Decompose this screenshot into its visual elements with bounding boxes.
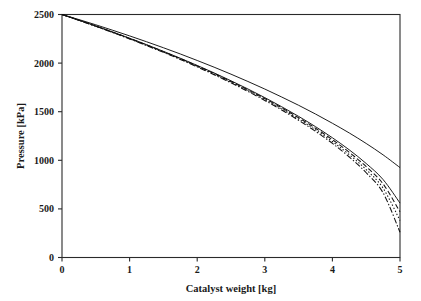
y-axis-title: Pressure [kPa]: [15, 103, 26, 169]
x-tick-label: 5: [398, 264, 403, 275]
chart-background: [0, 0, 421, 301]
x-tick-label: 0: [60, 264, 65, 275]
y-tick-label: 500: [39, 203, 54, 214]
y-tick-label: 1000: [34, 155, 54, 166]
y-tick-label: 2500: [34, 9, 54, 20]
y-tick-label: 0: [49, 252, 54, 263]
x-tick-label: 1: [127, 264, 132, 275]
y-tick-label: 2000: [34, 58, 54, 69]
y-tick-label: 1500: [34, 106, 54, 117]
x-tick-label: 4: [330, 264, 335, 275]
chart-page: 012345 05001000150020002500 Catalyst wei…: [0, 0, 421, 301]
x-tick-label: 2: [195, 264, 200, 275]
pressure-vs-catalyst-weight-chart: 012345 05001000150020002500 Catalyst wei…: [0, 0, 421, 301]
x-tick-label: 3: [262, 264, 267, 275]
x-axis-title: Catalyst weight [kg]: [186, 283, 276, 294]
